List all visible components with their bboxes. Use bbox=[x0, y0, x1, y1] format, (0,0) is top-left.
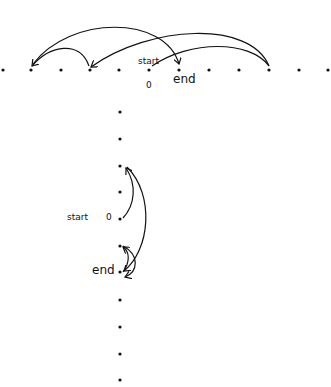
number-line-diagram bbox=[0, 0, 331, 387]
number-line-dot bbox=[118, 217, 121, 220]
number-line-dot bbox=[1, 68, 4, 71]
jump-arrow-down-to-end bbox=[124, 167, 146, 271]
number-line-dot bbox=[118, 325, 121, 328]
number-line-dot bbox=[147, 68, 150, 71]
number-line-dot bbox=[118, 137, 121, 140]
number-line-dot bbox=[118, 298, 121, 301]
number-line-dot bbox=[118, 164, 121, 167]
jump-arrow-right-to-left bbox=[91, 33, 269, 67]
number-line-dot bbox=[118, 110, 121, 113]
vertical-jump-arrows bbox=[123, 167, 146, 277]
number-line-dot bbox=[326, 68, 329, 71]
number-line-dot bbox=[117, 68, 120, 71]
number-line-dot bbox=[88, 68, 91, 71]
horizontal-end-label: end bbox=[173, 72, 196, 86]
number-line-dot bbox=[118, 352, 121, 355]
horizontal-start-label: start bbox=[138, 56, 159, 66]
vertical-number-line-dots bbox=[118, 110, 121, 381]
vertical-start-label: start bbox=[67, 212, 88, 222]
number-line-dot bbox=[118, 244, 121, 247]
horizontal-zero-label: 0 bbox=[146, 80, 152, 90]
number-line-dot bbox=[118, 190, 121, 193]
jump-arrow-start-to-right bbox=[152, 47, 269, 67]
number-line-dot bbox=[297, 68, 300, 71]
number-line-dot bbox=[118, 378, 121, 381]
horizontal-number-line-dots bbox=[1, 68, 329, 71]
vertical-zero-label: 0 bbox=[106, 212, 112, 222]
vertical-end-label: end bbox=[92, 263, 115, 277]
jump-arrow-left-short bbox=[32, 48, 89, 66]
number-line-dot bbox=[29, 68, 32, 71]
jump-arrow-start-up bbox=[123, 168, 133, 218]
number-line-dot bbox=[59, 68, 62, 71]
number-line-dot bbox=[118, 270, 121, 273]
number-line-dot bbox=[207, 68, 210, 71]
number-line-dot bbox=[267, 68, 270, 71]
number-line-dot bbox=[237, 68, 240, 71]
